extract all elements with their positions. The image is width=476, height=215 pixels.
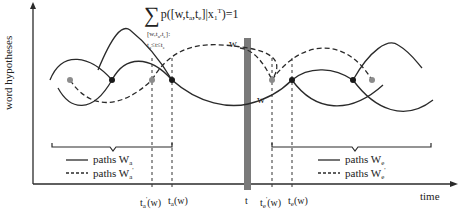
right-brace-icon <box>272 143 431 151</box>
legend-left-solid-label: paths Wa <box>93 154 132 167</box>
y-axis-label: word hypotheses <box>2 36 14 110</box>
start-path-low-valley <box>58 80 112 105</box>
legend-right-solid-label: paths We <box>345 154 384 167</box>
end-path-mid-hump <box>292 70 353 80</box>
word-hypotheses-diagram <box>0 0 476 215</box>
x-axis-label: time <box>420 191 440 202</box>
end-path-low-wave <box>353 80 433 111</box>
tick-ta: ta(w) <box>168 196 188 208</box>
tick-t: t <box>245 196 248 206</box>
x-axis-arrow-icon <box>450 181 458 187</box>
word-w-lower-label: w <box>257 94 265 105</box>
word-w-upper-label: w <box>229 38 237 49</box>
start-dashed-to-w <box>172 48 248 80</box>
gray-node-end <box>369 77 375 83</box>
tick-ta-prime: ta'(w) <box>140 196 161 210</box>
time-t-bar <box>244 38 251 190</box>
gray-node-te-prime <box>269 77 275 83</box>
legend-left-dashed-label: paths Wa' <box>93 167 134 181</box>
black-node-ta <box>169 77 175 83</box>
start-path-left-hump <box>50 59 112 80</box>
y-axis-arrow-icon <box>30 2 36 9</box>
end-path-valley <box>292 80 383 106</box>
tick-te: te(w) <box>288 196 308 208</box>
word-w-dashed-path <box>152 45 277 80</box>
end-paths <box>292 43 433 111</box>
nodes <box>67 77 375 83</box>
left-brace-icon <box>52 143 172 151</box>
braces <box>52 143 431 151</box>
word-w-solid-path <box>172 80 292 105</box>
black-node-2 <box>350 77 356 83</box>
end-path-high-arc <box>353 43 422 80</box>
legend-right-dashed-label: paths We' <box>345 167 386 181</box>
black-node-1 <box>109 77 115 83</box>
start-dashed-path <box>70 80 152 103</box>
gray-node-start <box>67 77 73 83</box>
black-node-te <box>289 77 295 83</box>
normalization-formula: ∑p([w,ta,te]|x1T)=1 <box>144 2 238 28</box>
gray-node-ta-prime <box>149 77 155 83</box>
end-dashed-path <box>272 48 372 80</box>
sum-symbol: ∑ <box>144 2 160 27</box>
formula-index: [w,ta,te]: ta≤t≤te <box>147 30 170 52</box>
tick-te-prime: te'(w) <box>260 196 281 210</box>
